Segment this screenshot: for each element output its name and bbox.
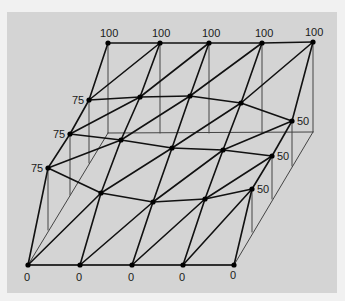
node-value-label: 100 — [152, 27, 170, 39]
mesh-edge — [172, 148, 223, 150]
mesh-edge — [153, 148, 172, 202]
mesh-edge — [101, 140, 121, 193]
mesh-edge — [190, 96, 241, 103]
base-plane-edge — [108, 132, 313, 133]
node-value-label: 0 — [24, 271, 30, 283]
mesh-node — [129, 262, 134, 267]
mesh-node — [249, 186, 254, 191]
drop-lines — [48, 42, 313, 232]
mesh-diagonal — [48, 140, 121, 168]
node-value-label: 75 — [72, 94, 84, 106]
node-value-label: 0 — [230, 269, 236, 281]
mesh-edge — [121, 140, 172, 148]
mesh-node — [86, 97, 91, 102]
mesh-node — [310, 39, 315, 44]
mesh-node — [45, 165, 50, 170]
mesh-node — [67, 131, 72, 136]
mesh-edge — [262, 42, 313, 43]
mesh-edge — [172, 96, 190, 148]
mesh-node — [150, 199, 155, 204]
mesh-node — [259, 40, 264, 45]
mesh-node — [187, 93, 192, 98]
surface-mesh-diagram: 10010010010010075757550505000000 — [0, 0, 345, 301]
node-value-label: 50 — [297, 115, 309, 127]
node-value-label: 75 — [31, 162, 43, 174]
mesh-node — [169, 145, 174, 150]
node-value-label: 100 — [305, 26, 323, 38]
mesh-node — [220, 147, 225, 152]
mesh-diagonal — [101, 148, 172, 193]
node-value-label: 75 — [53, 128, 65, 140]
mesh-node — [238, 100, 243, 105]
mesh-node — [157, 40, 162, 45]
mesh-node — [25, 262, 30, 267]
node-value-label: 100 — [255, 27, 273, 39]
mesh-edge — [241, 103, 292, 121]
mesh-edge — [89, 97, 140, 100]
mesh-node — [206, 40, 211, 45]
mesh-node — [289, 118, 294, 123]
node-value-label: 0 — [76, 271, 82, 283]
mesh-edge — [70, 134, 121, 140]
node-value-label: 100 — [202, 27, 220, 39]
mesh-diagonal — [223, 121, 292, 150]
mesh-node — [77, 262, 82, 267]
mesh-diagonal — [172, 103, 241, 148]
mesh-edge — [101, 193, 153, 202]
node-value-label: 50 — [257, 183, 269, 195]
mesh-node — [180, 262, 185, 267]
mesh-node — [98, 190, 103, 195]
mesh-edge — [153, 199, 205, 202]
mesh-edge — [234, 189, 252, 265]
mesh-diagonal — [190, 43, 262, 96]
mesh-edges — [28, 42, 313, 265]
mesh-edge — [48, 168, 101, 193]
mesh-edge — [28, 168, 48, 265]
mesh-edge — [140, 96, 190, 97]
node-value-label: 0 — [128, 271, 134, 283]
node-value-label: 0 — [179, 271, 185, 283]
mesh-edge — [223, 150, 272, 156]
mesh-node — [118, 137, 123, 142]
mesh-node — [269, 153, 274, 158]
mesh-node — [137, 94, 142, 99]
mesh-edge — [292, 42, 313, 121]
node-value-label: 100 — [100, 27, 118, 39]
node-value-labels: 10010010010010075757550505000000 — [24, 26, 323, 283]
node-value-label: 50 — [277, 150, 289, 162]
mesh-node — [231, 262, 236, 267]
mesh-node — [202, 196, 207, 201]
mesh-node — [105, 40, 110, 45]
